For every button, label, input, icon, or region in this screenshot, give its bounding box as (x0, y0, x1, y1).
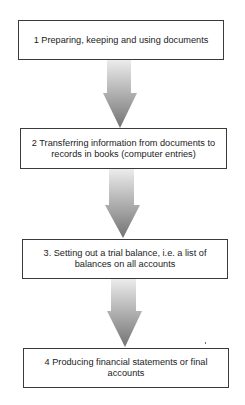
scan-speck (205, 342, 206, 344)
step-3-label: 3. Setting out a trial balance, i.e. a l… (27, 248, 223, 270)
step-1-label: 1 Preparing, keeping and using documents (34, 35, 209, 46)
step-1-box: 1 Preparing, keeping and using documents (18, 20, 224, 60)
step-2-label: 2 Transferring information from document… (25, 138, 222, 160)
step-4-label: 4 Producing financial statements or fina… (28, 357, 224, 379)
arrow-down-icon (106, 279, 143, 348)
arrow-down-icon (102, 60, 138, 129)
step-2-box: 2 Transferring information from document… (20, 128, 227, 169)
step-4-box: 4 Producing financial statements or fina… (23, 348, 229, 388)
step-3-box: 3. Setting out a trial balance, i.e. a l… (22, 239, 228, 279)
arrow-down-icon (104, 169, 141, 239)
